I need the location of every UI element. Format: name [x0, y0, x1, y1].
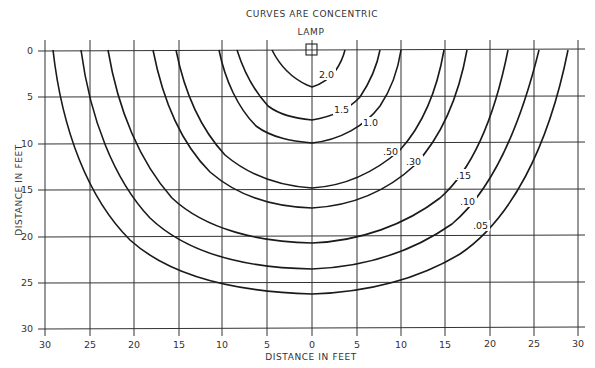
- label-0-50: .50: [383, 146, 398, 157]
- label-0-05: .05: [473, 220, 488, 231]
- x-axis-ticks: 30 25 20 15 10 5 0 5 10 15 20 25 30: [39, 338, 584, 350]
- x-axis-label: DISTANCE IN FEET: [265, 352, 357, 362]
- svg-text:15: 15: [173, 339, 185, 350]
- svg-text:0: 0: [309, 339, 315, 350]
- svg-text:5: 5: [354, 339, 360, 350]
- curve-labels: 2.0 1.5 1.0 .50 .30 .15 .10 .05: [318, 69, 490, 231]
- svg-text:20: 20: [128, 339, 140, 350]
- y-axis-label: DISTANCE IN FEET: [14, 144, 24, 236]
- label-0-15: .15: [456, 170, 471, 181]
- svg-text:20: 20: [484, 338, 496, 349]
- isolux-curves: [53, 50, 568, 294]
- isolux-chart: CURVES ARE CONCENTRIC LAMP 0 5 10 15: [0, 0, 595, 368]
- svg-text:15: 15: [439, 339, 451, 350]
- chart-title: CURVES ARE CONCENTRIC: [246, 9, 378, 19]
- label-0-10: .10: [460, 196, 475, 207]
- label-2-0: 2.0: [319, 69, 334, 80]
- svg-text:0: 0: [27, 45, 33, 56]
- svg-text:25: 25: [21, 277, 33, 288]
- svg-text:10: 10: [216, 339, 228, 350]
- svg-text:30: 30: [21, 323, 33, 334]
- lamp-label: LAMP: [298, 27, 325, 37]
- label-1-5: 1.5: [334, 104, 349, 115]
- curve-0-15: [108, 50, 508, 243]
- label-0-30: .30: [406, 156, 421, 167]
- svg-text:30: 30: [572, 338, 584, 349]
- svg-text:30: 30: [39, 339, 51, 350]
- label-1-0: 1.0: [363, 117, 378, 128]
- svg-text:10: 10: [395, 339, 407, 350]
- svg-text:25: 25: [84, 339, 96, 350]
- svg-text:5: 5: [264, 339, 270, 350]
- svg-text:5: 5: [27, 91, 33, 102]
- curve-0-30: [153, 50, 467, 208]
- svg-text:25: 25: [528, 338, 540, 349]
